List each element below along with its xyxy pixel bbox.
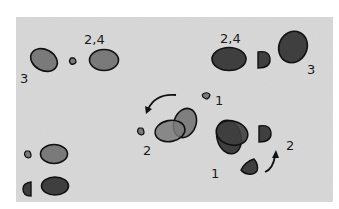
label-1: 1 [215, 93, 223, 108]
label-2-4: 2,4 [220, 31, 241, 46]
small-d-shape [25, 151, 32, 158]
label-2-4: 2,4 [84, 32, 105, 47]
small-d-shape [70, 58, 77, 64]
label-3: 3 [307, 62, 315, 77]
dark-oval-shape [212, 48, 246, 71]
light-oval-shape [90, 50, 119, 71]
dark-d-shape [259, 126, 271, 142]
label-2: 2 [143, 143, 151, 158]
dark-oval-shape [42, 177, 69, 195]
small-d-shape [138, 128, 145, 135]
dark-d-shape [23, 182, 31, 196]
light-oval-shape [41, 145, 68, 164]
diagram-canvas: 2,4 3 2,4 3 1 2 2 1 [0, 0, 339, 209]
dark-d-shape [258, 52, 270, 68]
label-2: 2 [286, 138, 294, 153]
label-3: 3 [20, 71, 28, 86]
label-1: 1 [211, 166, 219, 181]
